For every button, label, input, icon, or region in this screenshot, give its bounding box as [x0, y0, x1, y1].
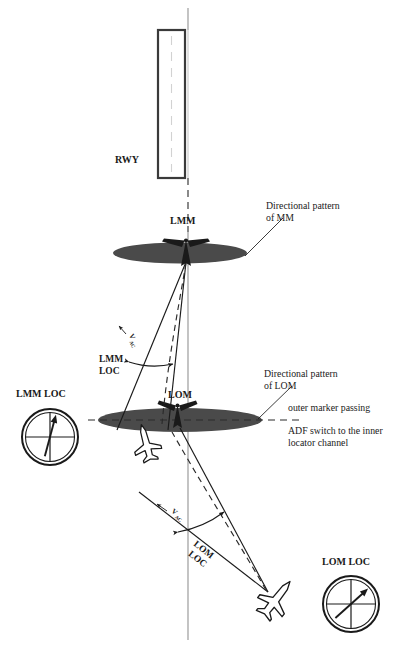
lom-loc-indicator-title: LOM LOC	[322, 556, 370, 567]
lom-loc-angle-label: LOM LOC	[185, 539, 216, 570]
v-ac-lower-label: V AC	[169, 507, 186, 523]
adf-switch-label-line1: ADF switch to the inner	[288, 425, 383, 436]
lmm-loc-angle-label-line1: LMM	[99, 354, 123, 364]
runway-rectangle	[158, 30, 185, 178]
aircraft-lower	[251, 572, 302, 625]
svg-text:AC: AC	[174, 514, 184, 523]
v-ac-upper-label: V AC	[126, 333, 140, 350]
lmm-loc-indicator[interactable]: LMM LOC	[16, 388, 78, 465]
adf-switch-label-line2: locator channel	[288, 437, 348, 448]
lom-pattern-annotation-line1: Directional pattern	[264, 368, 338, 379]
v-ac-upper-arrow	[119, 326, 126, 334]
mm-pattern-annotation-line2: of MM	[266, 212, 294, 223]
mm-pattern-annotation-line1: Directional pattern	[266, 200, 340, 211]
lmm-loc-indicator-title: LMM LOC	[16, 388, 66, 399]
runway-label: RWY	[115, 154, 140, 165]
mm-pattern-leader-line	[245, 218, 283, 256]
diagram-canvas: RWY LMM Directional pattern of MM	[0, 0, 400, 648]
svg-text:AC: AC	[128, 340, 137, 350]
lmm-marker-label: LMM	[170, 215, 196, 226]
ils-approach-diagram: RWY LMM Directional pattern of MM	[0, 0, 400, 648]
lom-loc-indicator[interactable]: LOM LOC	[322, 556, 379, 632]
outer-marker-passing-label: outer marker passing	[288, 402, 370, 413]
lmm-loc-angle-label-line2: LOC	[99, 366, 120, 376]
lom-pattern-annotation-line2: of LOM	[264, 380, 297, 391]
